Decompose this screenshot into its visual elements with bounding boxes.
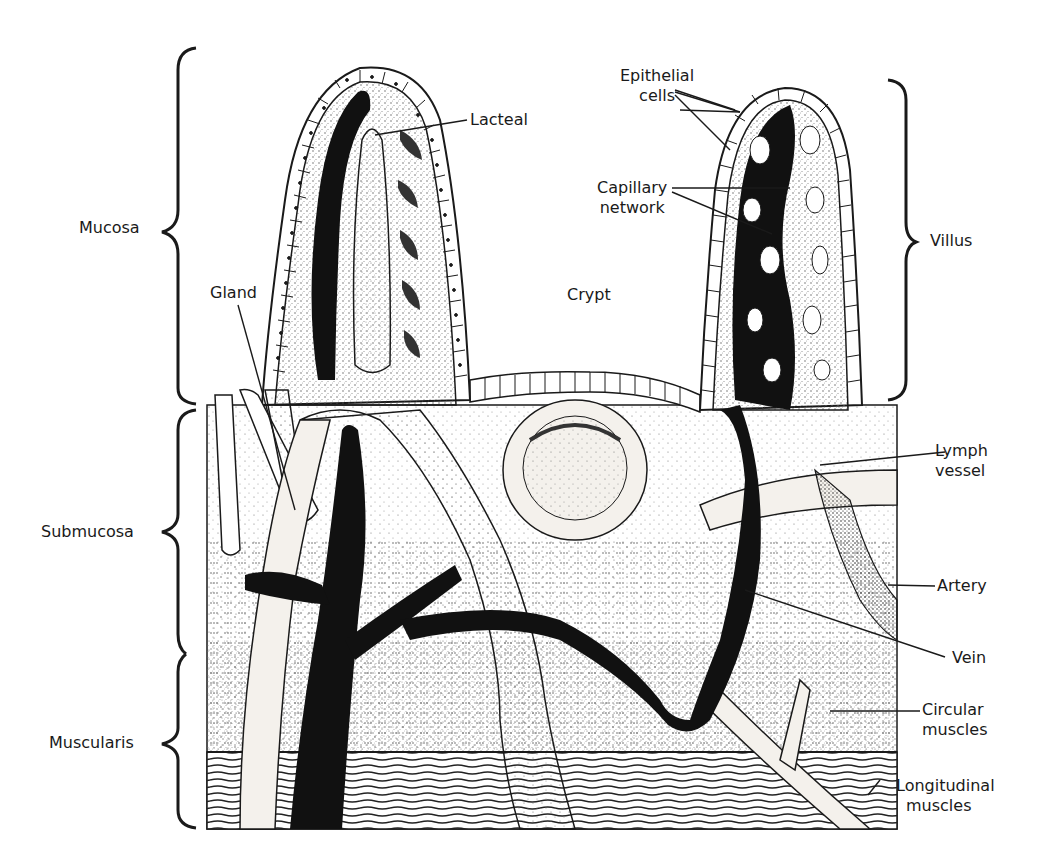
- label-longitudinal-line2: muscles: [896, 796, 995, 816]
- label-lymph-line1: Lymph: [935, 441, 988, 461]
- label-crypt: Crypt: [567, 285, 611, 305]
- label-artery: Artery: [937, 576, 987, 596]
- crypt-cross-section: [503, 400, 647, 540]
- label-lymph-vessel: Lymph vessel: [935, 441, 988, 481]
- label-capillary-line1: Capillary: [597, 178, 667, 198]
- right-villus: [700, 88, 862, 410]
- label-gland: Gland: [210, 283, 257, 303]
- mucosa-bracket: [162, 48, 196, 404]
- label-longitudinal-line1: Longitudinal: [896, 776, 995, 796]
- label-lacteal: Lacteal: [470, 110, 528, 130]
- submucosa-bracket: [162, 410, 196, 654]
- label-circular-line2: muscles: [922, 720, 987, 740]
- villus-bracket: [888, 80, 916, 400]
- label-epithelial-line2: cells: [620, 86, 694, 106]
- intestinal-wall-diagram: Mucosa Submucosa Muscularis Gland Lactea…: [0, 0, 1041, 865]
- label-mucosa: Mucosa: [79, 218, 140, 238]
- label-vein: Vein: [952, 648, 986, 668]
- label-epithelial-cells: Epithelial cells: [620, 66, 694, 106]
- label-capillary-line2: network: [597, 198, 667, 218]
- label-submucosa: Submucosa: [41, 522, 134, 542]
- label-circular-line1: Circular: [922, 700, 987, 720]
- label-longitudinal-muscles: Longitudinal muscles: [896, 776, 995, 816]
- label-epithelial-line1: Epithelial: [620, 66, 694, 86]
- label-capillary-network: Capillary network: [597, 178, 667, 218]
- label-circular-muscles: Circular muscles: [922, 700, 987, 740]
- muscularis-bracket: [162, 654, 196, 828]
- label-muscularis: Muscularis: [49, 733, 134, 753]
- label-villus: Villus: [930, 231, 972, 251]
- left-villus: [262, 67, 470, 405]
- label-lymph-line2: vessel: [935, 461, 988, 481]
